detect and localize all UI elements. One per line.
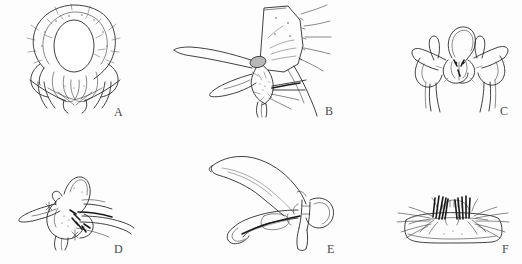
panel-e-mandible [198, 148, 338, 252]
panel-a-head-capsule [8, 2, 138, 114]
panel-label-f: F [502, 243, 509, 255]
panel-f-labium-bristles [392, 182, 514, 248]
panel-c-symmetric-sclerite [404, 18, 514, 114]
panel-label-a: A [114, 106, 123, 118]
panel-label-c: C [500, 105, 509, 117]
panel-label-d: D [114, 243, 123, 255]
panel-label-b: B [325, 105, 334, 117]
figure-plate: A [0, 0, 522, 264]
panel-d-mouthpart-cluster [12, 168, 137, 250]
panel-b-maxilla-stylet [172, 2, 332, 117]
panel-label-e: E [327, 243, 335, 255]
